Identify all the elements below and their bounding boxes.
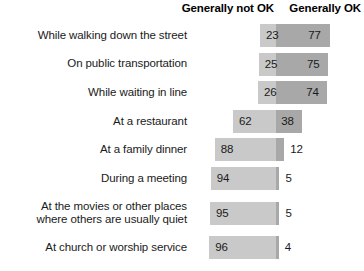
value-label-generally-not-ok: 26 <box>264 81 277 104</box>
bar-segment-generally-ok <box>276 202 279 225</box>
bar-group: 955 <box>0 202 364 225</box>
value-label-generally-not-ok: 62 <box>239 110 252 133</box>
value-label-generally-not-ok: 96 <box>215 236 228 259</box>
bar-segment-generally-ok <box>276 167 279 190</box>
value-label-generally-ok: 5 <box>285 167 291 190</box>
value-label-generally-not-ok: 23 <box>266 24 279 47</box>
bar-group: 2674 <box>0 81 364 104</box>
legend-label-generally-ok: Generally OK <box>289 2 361 14</box>
value-label-generally-ok: 75 <box>307 53 320 76</box>
chart-row: At church or worship service964 <box>0 236 364 259</box>
value-label-generally-ok: 12 <box>290 138 303 161</box>
value-label-generally-not-ok: 25 <box>265 53 278 76</box>
chart-row: During a meeting945 <box>0 167 364 190</box>
bar-segment-generally-ok <box>276 138 284 161</box>
value-label-generally-ok: 38 <box>281 110 294 133</box>
bar-segment-generally-ok <box>276 53 328 76</box>
legend-label-generally-not-ok: Generally not OK <box>182 2 274 14</box>
bar-group: 2575 <box>0 53 364 76</box>
bar-segment-generally-ok <box>276 24 330 47</box>
bar-group: 6238 <box>0 110 364 133</box>
chart-row: At a restaurant6238 <box>0 110 364 133</box>
bar-segment-generally-ok <box>276 236 279 259</box>
value-label-generally-ok: 4 <box>285 236 291 259</box>
chart-row: While waiting in line2674 <box>0 81 364 104</box>
bar-group: 8812 <box>0 138 364 161</box>
bar-group: 945 <box>0 167 364 190</box>
chart-legend-header: Generally not OK Generally OK <box>0 2 364 20</box>
value-label-generally-not-ok: 94 <box>217 167 230 190</box>
value-label-generally-ok: 77 <box>308 24 321 47</box>
value-label-generally-ok: 5 <box>285 202 291 225</box>
value-label-generally-not-ok: 88 <box>221 138 234 161</box>
value-label-generally-ok: 74 <box>306 81 319 104</box>
bar-group: 964 <box>0 236 364 259</box>
chart-row: At the movies or other placeswhere other… <box>0 202 364 225</box>
chart-row: On public transportation2575 <box>0 53 364 76</box>
chart-row: While walking down the street2377 <box>0 24 364 47</box>
bar-segment-generally-ok <box>276 81 327 104</box>
chart-row: At a family dinner8812 <box>0 138 364 161</box>
value-label-generally-not-ok: 95 <box>216 202 229 225</box>
bar-group: 2377 <box>0 24 364 47</box>
diverging-bar-chart: Generally not OK Generally OK While walk… <box>0 0 364 271</box>
